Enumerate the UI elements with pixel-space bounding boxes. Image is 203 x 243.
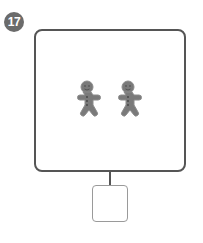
picture-frame	[34, 29, 186, 172]
gingerbread-man-icon	[73, 80, 101, 118]
answer-box[interactable]	[92, 185, 128, 222]
gingerbread-man-icon	[114, 80, 142, 118]
connector-line	[109, 170, 111, 185]
question-number-badge: 17	[4, 12, 24, 32]
